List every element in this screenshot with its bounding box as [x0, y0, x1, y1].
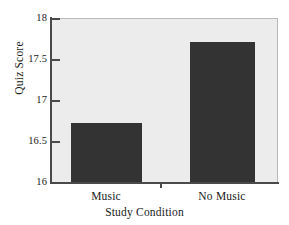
x-axis-title: Study Condition — [0, 205, 289, 219]
x-axis-tick-label-music: Music — [51, 189, 161, 203]
y-axis-tick-label: 17.5 — [0, 54, 47, 64]
x-axis-tick-label-no-music: No Music — [167, 189, 277, 203]
y-axis-tick — [52, 182, 60, 184]
x-axis-tick — [160, 183, 162, 188]
x-axis-line — [50, 182, 279, 184]
y-axis-tick-label: 17 — [0, 95, 47, 105]
y-axis-tick-label: 16.5 — [0, 136, 47, 146]
y-axis-tick-label: 16 — [0, 177, 47, 187]
y-axis-tick — [52, 141, 60, 143]
y-axis-tick-label: 18 — [0, 13, 47, 23]
y-axis-tick — [52, 18, 60, 20]
bar-no-music — [190, 42, 255, 182]
y-axis-tick — [52, 59, 60, 61]
bar-music — [71, 123, 142, 182]
bar-chart: Quiz Score 18 17.5 17 16.5 16 Music No M… — [0, 0, 289, 225]
y-axis-tick — [52, 100, 60, 102]
